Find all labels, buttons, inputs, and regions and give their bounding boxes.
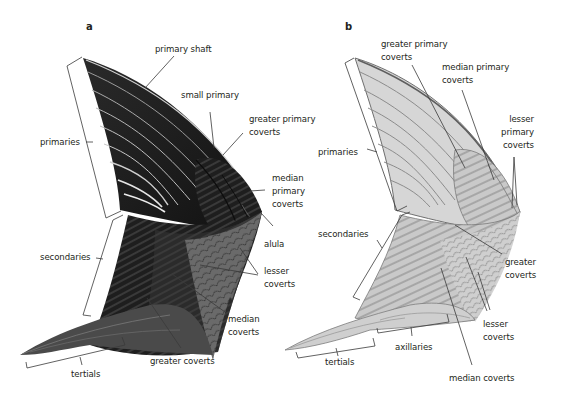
label-secondaries-a: secondaries	[40, 251, 91, 264]
label-primaries-b: primaries	[318, 146, 358, 159]
label-tertials-b: tertials	[325, 356, 354, 369]
label-median-coverts-b: median coverts	[449, 372, 514, 385]
label-lesser-primary-coverts-b: lesser primary coverts	[494, 113, 534, 152]
label-tertials-a: tertials	[71, 368, 100, 381]
label-greater-coverts-a: greater coverts	[150, 355, 215, 368]
panel-b-letter: b	[345, 21, 352, 32]
label-secondaries-b: secondaries	[318, 228, 369, 241]
label-primary-shaft: primary shaft	[155, 43, 212, 56]
wing-anatomy-figure: a primary shaft small primary greater pr…	[0, 0, 564, 401]
label-greater-coverts-b: greater coverts	[505, 256, 536, 282]
label-greater-primary-coverts-b: greater primary coverts	[381, 38, 447, 64]
label-alula: alula	[264, 238, 284, 251]
label-median-coverts-a: median coverts	[228, 313, 260, 339]
label-primaries-a: primaries	[40, 136, 80, 149]
label-axillaries: axillaries	[395, 341, 432, 354]
label-small-primary: small primary	[181, 89, 239, 102]
label-median-primary-coverts-b: median primary coverts	[442, 61, 509, 87]
label-median-primary-coverts-a: median primary coverts	[272, 172, 305, 211]
label-greater-primary-coverts-a: greater primary coverts	[249, 113, 315, 139]
panel-a-letter: a	[86, 21, 93, 32]
label-lesser-coverts-b: lesser coverts	[483, 318, 514, 344]
label-lesser-coverts-a: lesser coverts	[264, 265, 295, 291]
